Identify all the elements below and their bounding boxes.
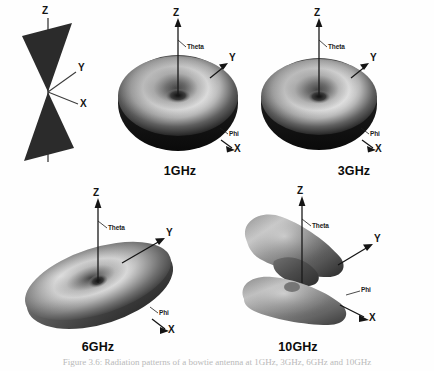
- pattern-6ghz-frequency-label: 6GHz: [58, 340, 138, 354]
- pattern-1ghz-panel: Z Theta Y Phi X: [108, 0, 248, 180]
- pattern-6ghz-theta-label: Theta: [108, 225, 125, 232]
- pattern-6ghz-phi-label: Phi: [159, 310, 169, 317]
- pattern-1ghz-z-label: Z: [173, 8, 179, 18]
- geometry-z-label: Z: [42, 6, 48, 16]
- z-axis-arrowhead-6ghz: [95, 198, 102, 208]
- pattern-3ghz-x-label: X: [375, 144, 382, 154]
- bowtie-lower-triangle: [24, 92, 74, 161]
- pattern-3ghz-phi-label: Phi: [370, 131, 380, 138]
- pattern-3ghz-svg: [253, 0, 393, 180]
- pattern-1ghz-theta-label: Theta: [187, 44, 204, 51]
- pattern-10ghz-z-label: Z: [297, 186, 303, 196]
- pattern-1ghz-y-label: Y: [229, 53, 236, 63]
- bowtie-antenna-geometry-panel: Z Y X: [0, 0, 110, 180]
- bowtie-upper-triangle: [22, 23, 72, 92]
- theta-leader-10ghz: [302, 219, 311, 226]
- y-axis-arrowhead-10ghz: [363, 244, 373, 251]
- pattern-10ghz-panel: Z Theta Y Phi X: [228, 183, 408, 343]
- lobe-inner-bump-10ghz: [284, 282, 300, 292]
- geometry-y-label: Y: [78, 63, 85, 73]
- pattern-1ghz-phi-label: Phi: [229, 131, 239, 138]
- x-axis-line-6ghz: [152, 319, 165, 329]
- phi-leader-10ghz: [346, 291, 360, 295]
- pattern-1ghz-frequency-label: 1GHz: [140, 164, 220, 178]
- pattern-6ghz-panel: Z Theta Y Phi X: [10, 183, 200, 343]
- pattern-10ghz-y-label: Y: [374, 234, 381, 244]
- pattern-3ghz-y-label: Y: [370, 53, 377, 63]
- theta-leader-3ghz: [319, 40, 327, 47]
- pattern-6ghz-y-label: Y: [166, 228, 173, 238]
- pattern-10ghz-phi-label: Phi: [361, 287, 371, 294]
- torus-6ghz-group: [16, 226, 184, 345]
- pattern-10ghz-x-label: X: [369, 313, 376, 323]
- z-axis-arrowhead-3ghz: [316, 18, 323, 27]
- pattern-3ghz-panel: Z Theta Y Phi X: [253, 0, 393, 180]
- pattern-1ghz-x-label: X: [234, 144, 241, 154]
- pattern-3ghz-frequency-label: 3GHz: [314, 164, 394, 178]
- pattern-10ghz-frequency-label: 10GHz: [253, 340, 343, 354]
- figure-caption: Figure 3.6: Radiation patterns of a bowt…: [0, 357, 434, 371]
- geometry-x-label: X: [80, 99, 87, 109]
- theta-leader-6ghz: [98, 221, 107, 228]
- pattern-3ghz-theta-label: Theta: [328, 44, 345, 51]
- pattern-6ghz-x-label: X: [168, 325, 175, 335]
- pattern-3ghz-z-label: Z: [314, 8, 320, 18]
- pattern-10ghz-theta-label: Theta: [312, 223, 329, 230]
- bowtie-geometry-svg: [0, 0, 110, 180]
- z-axis-arrowhead-10ghz: [299, 196, 306, 206]
- y-axis-arrowhead-6ghz: [155, 238, 165, 245]
- theta-leader-1ghz: [178, 40, 186, 47]
- phi-leader-6ghz: [150, 307, 158, 313]
- y-axis-line-10ghz: [338, 247, 368, 265]
- pattern-6ghz-z-label: Z: [93, 188, 99, 198]
- pattern-1ghz-svg: [108, 0, 248, 180]
- x-axis-arrowhead-10ghz: [359, 315, 369, 322]
- pattern-6ghz-svg: [10, 183, 200, 343]
- antenna-radiation-figure: Z Y X: [0, 0, 434, 371]
- pattern-10ghz-svg: [228, 183, 408, 343]
- z-axis-arrowhead-1ghz: [175, 18, 182, 27]
